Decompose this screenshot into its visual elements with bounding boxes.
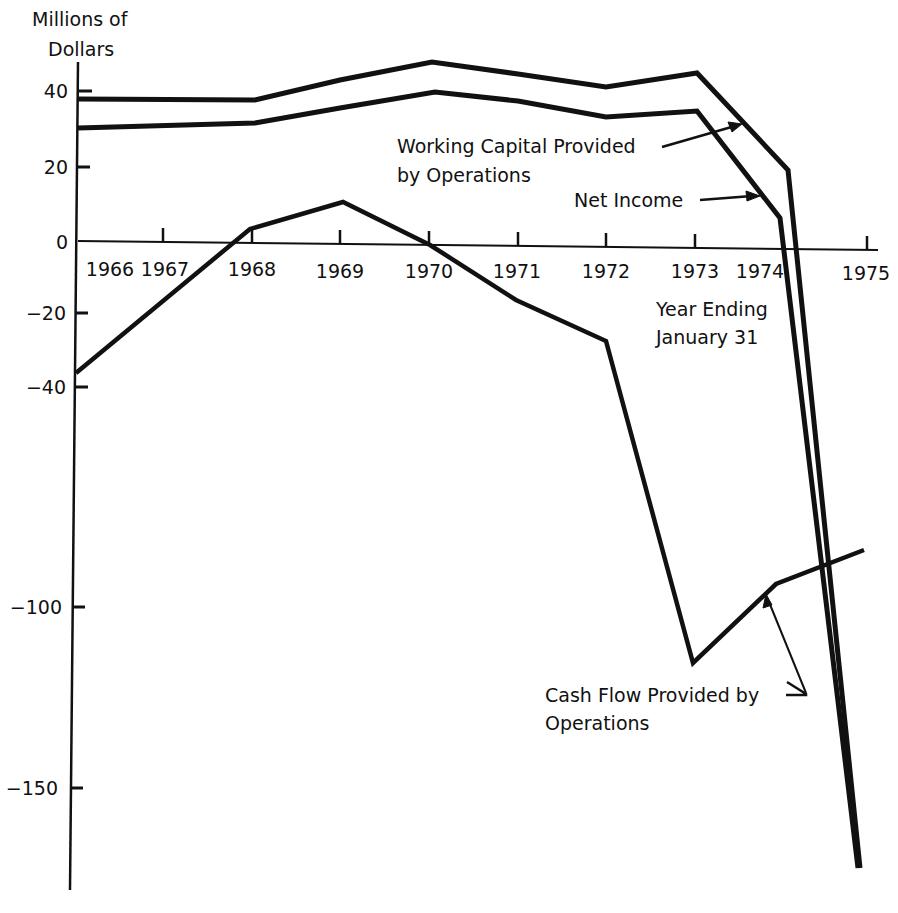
x-tick-label: 1973: [665, 260, 725, 282]
cash-flow-annotation-line2: Operations: [545, 712, 649, 734]
x-axis: [78, 241, 878, 250]
y-axis-label-line1: Millions of: [32, 8, 127, 30]
x-tick-label: 1970: [399, 260, 459, 282]
y-tick-label: −20: [6, 302, 66, 324]
y-tick-label: 0: [8, 231, 68, 253]
x-tick-label: 1975: [836, 262, 896, 284]
ni-arrow-line: [700, 196, 752, 200]
annotation-arrows: [662, 122, 806, 695]
working-capital-annotation-line1: Working Capital Provided: [397, 135, 636, 157]
x-tick-label: 1968: [222, 258, 282, 280]
cash-flow-annotation-line1: Cash Flow Provided by: [545, 684, 759, 706]
x-tick-label: 1969: [310, 260, 370, 282]
y-tick-label: −100: [2, 596, 62, 618]
y-tick-label: 20: [8, 156, 68, 178]
y-tick-label: −40: [6, 376, 66, 398]
y-tick-label: 40: [8, 80, 68, 102]
x-axis-label-line2: January 31: [656, 326, 758, 348]
x-tick-label: 1966: [80, 258, 140, 280]
net-income-annotation: Net Income: [574, 189, 683, 211]
x-axis-label-line1: Year Ending: [656, 298, 768, 320]
wc-arrowhead-icon: [728, 122, 742, 132]
y-axis: [70, 62, 78, 890]
series-net-income-line: [78, 92, 858, 868]
x-tick-label: 1974: [730, 260, 790, 282]
financial-line-chart: Millions of Dollars 40 20 0 −20 −40 −100…: [0, 0, 898, 913]
x-tick-label: 1967: [135, 258, 195, 280]
y-tick-label: −150: [0, 777, 58, 799]
x-tick-label: 1972: [576, 260, 636, 282]
cf-arrow-line: [769, 602, 806, 693]
x-tick-label: 1971: [487, 260, 547, 282]
working-capital-annotation-line2: by Operations: [397, 164, 531, 186]
y-axis-label-line2: Dollars: [48, 38, 114, 60]
